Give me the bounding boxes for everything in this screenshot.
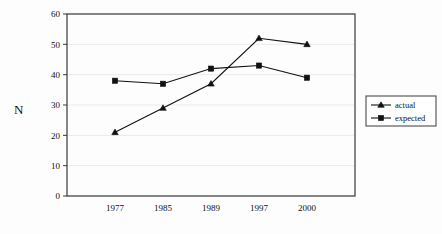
- x-tick-label: 1977: [106, 203, 125, 213]
- y-tick-label: 50: [51, 40, 61, 50]
- legend-marker-expected: [378, 115, 383, 120]
- chart-legend: actualexpected: [366, 96, 436, 126]
- y-axis-tick-labels: 0102030405060: [51, 9, 67, 201]
- data-point-expected: [304, 75, 309, 80]
- chart-figure: N 0102030405060 19771985198919972000 act…: [0, 0, 442, 234]
- data-point-actual: [160, 105, 167, 111]
- y-tick-label: 0: [56, 191, 61, 201]
- y-tick-label: 40: [51, 70, 61, 80]
- data-point-actual: [256, 35, 263, 41]
- data-point-expected: [160, 81, 165, 86]
- data-series-group: [112, 35, 311, 135]
- data-point-expected: [112, 78, 117, 83]
- data-point-expected: [208, 66, 213, 71]
- x-tick-label: 1989: [202, 203, 221, 213]
- x-tick-label: 2000: [298, 203, 317, 213]
- y-tick-label: 20: [51, 131, 61, 141]
- y-tick-label: 10: [51, 161, 61, 171]
- data-point-actual: [112, 129, 119, 135]
- gridlines-group: [67, 14, 355, 196]
- x-axis-tick-labels: 19771985198919972000: [106, 203, 317, 213]
- line-chart: 0102030405060 19771985198919972000 actua…: [0, 0, 442, 234]
- y-tick-label: 30: [51, 100, 61, 110]
- data-point-expected: [256, 63, 261, 68]
- legend-label-actual: actual: [395, 100, 416, 110]
- legend-label-expected: expected: [395, 113, 426, 123]
- y-tick-label: 60: [51, 9, 61, 19]
- x-tick-label: 1985: [154, 203, 173, 213]
- x-tick-label: 1997: [250, 203, 269, 213]
